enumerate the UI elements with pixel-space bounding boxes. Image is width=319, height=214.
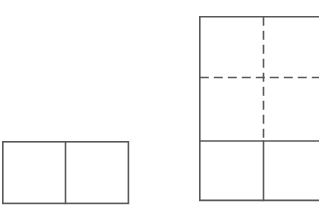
geometry-diagram-svg xyxy=(0,0,319,214)
diagram-canvas xyxy=(0,0,319,214)
right-figure-group xyxy=(200,17,319,201)
left-figure-group xyxy=(3,142,129,204)
right-square-outline xyxy=(200,17,319,201)
